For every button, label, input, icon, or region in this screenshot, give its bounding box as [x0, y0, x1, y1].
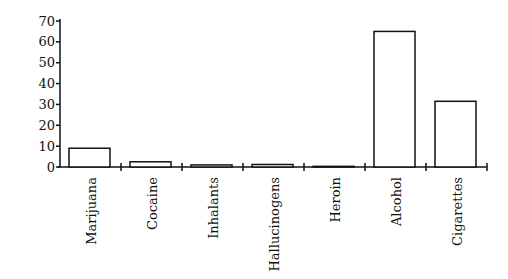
bar-inhalants	[191, 165, 232, 167]
x-tick-label: Heroin	[328, 176, 343, 222]
x-tick-label: Hallucinogens	[267, 177, 282, 271]
x-tick-labels: MarijuanaCocaineInhalantsHallucinogensHe…	[84, 176, 465, 271]
bar-alcohol	[374, 31, 415, 167]
x-tick-label: Alcohol	[389, 177, 404, 227]
x-tick-label: Marijuana	[84, 177, 99, 245]
y-tick-label: 60	[38, 34, 55, 49]
y-tick-label: 30	[38, 97, 55, 112]
y-tick-label: 10	[38, 139, 55, 154]
y-tick-label: 0	[47, 160, 55, 175]
bar-cigarettes	[435, 101, 476, 167]
bar-heroin	[313, 166, 354, 167]
x-tick-label: Cocaine	[145, 177, 160, 230]
y-tick-label: 70	[38, 14, 55, 29]
y-axis-label: Percent of Total	[0, 0, 1, 94]
bars	[69, 31, 476, 167]
x-tick-label: Inhalants	[206, 177, 221, 239]
bar-cocaine	[130, 162, 171, 167]
y-tick-label: 50	[38, 55, 55, 70]
y-tick-label: 20	[38, 118, 55, 133]
bar-chart: 010203040506070 MarijuanaCocaineInhalant…	[0, 0, 508, 279]
x-tick-label: Cigarettes	[450, 177, 465, 246]
bar-hallucinogens	[252, 164, 293, 167]
bar-marijuana	[69, 148, 110, 167]
y-axis: 010203040506070	[38, 14, 60, 175]
y-tick-label: 40	[38, 76, 55, 91]
